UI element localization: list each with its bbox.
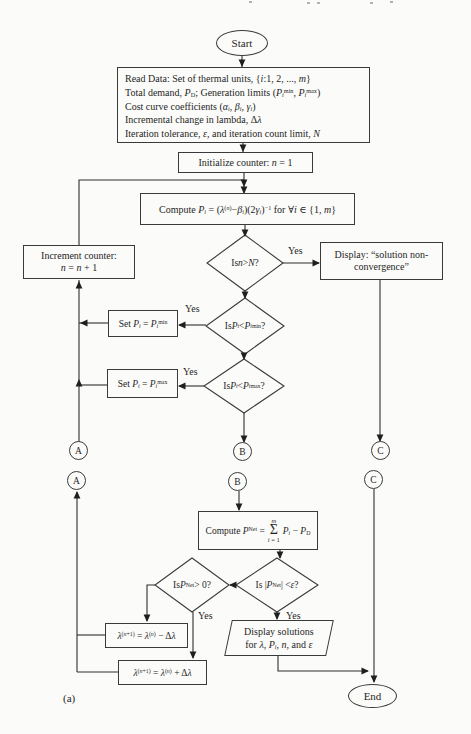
compute-pi-process: Compute Pi = (λ(n)−βi)(2γi)−1 for ∀i ∈ {…	[140, 193, 355, 225]
read-data-process: Read Data: Set of thermal units, {i:1, 2…	[117, 67, 370, 143]
compute-pnet-process: Compute PNet = m Σ i = 1 Pi − PD	[198, 511, 318, 550]
connector-c-top: C	[371, 441, 390, 460]
initialize-counter-process: Initialize counter: n = 1	[178, 152, 313, 173]
yes-label-pnet: Yes	[198, 610, 213, 621]
display-nonconvergence-line: Display: “solution non-	[335, 249, 429, 262]
connector-letter: C	[370, 475, 376, 485]
connector-letter: B	[234, 477, 240, 487]
yes-label-tolerance: Yes	[286, 610, 301, 621]
display-nonconvergence-line: convergence”	[354, 261, 409, 274]
connector-b-bottom: B	[228, 472, 247, 491]
flowchart-page: Start End Read Data: Set of thermal unit…	[0, 0, 471, 734]
decision-tolerance-label: Is |PNet| < ε?	[242, 571, 312, 599]
compute-pi-label: Compute Pi = (λ(n)−βi)(2γi)−1 for ∀i ∈ {…	[159, 204, 336, 215]
read-data-line: Total demand, PD; Generation limits (Pim…	[125, 86, 320, 100]
end-label: End	[364, 690, 382, 702]
set-pmax-process: Set Pi = Pimax	[107, 369, 178, 398]
connector-letter: C	[377, 446, 383, 456]
connector-letter: B	[239, 447, 245, 457]
increment-counter-process: Increment counter: n = n + 1	[23, 245, 135, 279]
connector-b-top: B	[233, 442, 252, 461]
start-terminal: Start	[216, 30, 268, 56]
read-data-line: Read Data: Set of thermal units, {i:1, 2…	[125, 72, 311, 86]
end-terminal: End	[348, 684, 397, 708]
decision-pmax-label: Is Pi < Pimax ?	[210, 372, 278, 400]
display-solutions-output: Display solutions for λ, Pi, n, and ε	[224, 620, 334, 656]
decision-pmin-label: Is Pi < Pimin ?	[211, 312, 279, 340]
connector-a-bottom: A	[67, 471, 86, 490]
connector-letter: A	[75, 446, 82, 456]
set-pmax-label: Set Pi = Pimax	[118, 379, 168, 389]
decision-iteration-label: Is n > N?	[213, 249, 277, 277]
connector-a-top: A	[69, 441, 88, 460]
compute-pnet-prefix: Compute PNet =	[206, 526, 265, 536]
connector-c-bottom: C	[364, 470, 383, 489]
connector-letter: A	[73, 476, 80, 486]
yes-label-pmax: Yes	[183, 366, 198, 377]
set-pmin-label: Set Pi = Pimin	[119, 319, 168, 329]
set-pmin-process: Set Pi = Pimin	[108, 310, 178, 337]
lambda-increase-process: λ(n+1) = λ(n) + Δλ	[118, 660, 207, 685]
start-label: Start	[232, 37, 253, 49]
lambda-decrease-label: λ(n+1) = λ(n) − Δλ	[117, 631, 175, 641]
compute-pnet-suffix: Pi − PD	[283, 526, 311, 536]
display-nonconvergence-process: Display: “solution non- convergence”	[320, 242, 443, 280]
decision-pnet-positive-label: Is PNet > 0?	[159, 571, 225, 599]
yes-label-iteration: Yes	[288, 245, 303, 256]
yes-label-pmin: Yes	[185, 303, 200, 314]
display-solutions-line: Display solutions	[244, 625, 314, 638]
sum-lower-limit: i = 1	[268, 537, 280, 544]
increment-counter-line: n = n + 1	[61, 262, 97, 275]
read-data-line: Cost curve coefficients (αi, βi, γi)	[125, 100, 256, 114]
lambda-decrease-process: λ(n+1) = λ(n) − Δλ	[105, 623, 188, 648]
increment-counter-line: Increment counter:	[41, 250, 117, 263]
summation-symbol: m Σ i = 1	[268, 518, 280, 544]
read-data-line: Iteration tolerance, ε, and iteration co…	[125, 127, 320, 141]
display-solutions-line: for λ, Pi, n, and ε	[244, 638, 314, 651]
lambda-increase-label: λ(n+1) = λ(n) + Δλ	[133, 668, 191, 678]
sigma-glyph: Σ	[270, 524, 278, 537]
initialize-counter-label: Initialize counter: n = 1	[199, 157, 293, 168]
figure-caption: (a)	[63, 692, 75, 704]
read-data-line: Incremental change in lambda, Δλ	[125, 113, 262, 127]
